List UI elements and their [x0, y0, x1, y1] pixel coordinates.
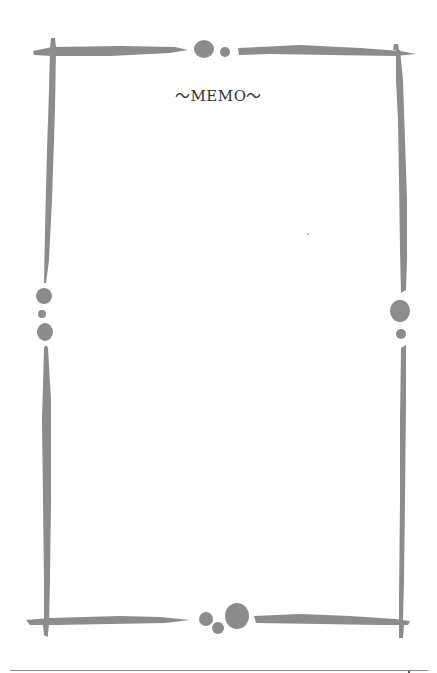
- bottom-right-stroke: [254, 614, 410, 625]
- right-dot-small: [396, 329, 406, 339]
- top-dot-small: [220, 47, 230, 57]
- bottom-dot-2: [212, 622, 224, 634]
- memo-title: ～MEMO～: [0, 86, 437, 106]
- left-upper-stroke: [44, 48, 56, 283]
- left-dot-1: [36, 288, 52, 304]
- right-lower-stroke: [399, 345, 406, 638]
- memo-page: ～MEMO～: [0, 0, 437, 673]
- left-lower-stroke: [42, 346, 51, 635]
- memo-writing-area: [60, 115, 380, 595]
- bottom-divider: [10, 670, 428, 671]
- bottom-dot-3: [225, 603, 249, 629]
- bottom-right-post: [399, 625, 404, 638]
- left-dot-2: [38, 310, 46, 318]
- bottom-left-stroke: [26, 616, 190, 625]
- top-left-stroke: [33, 46, 188, 56]
- top-right-stroke: [238, 45, 416, 56]
- bottom-left-post: [43, 625, 48, 637]
- top-left-post: [50, 38, 56, 48]
- top-dot-large: [194, 40, 214, 58]
- bottom-dot-1: [199, 612, 213, 626]
- top-right-post: [393, 44, 399, 50]
- left-dot-3: [37, 323, 53, 341]
- right-dot-large: [390, 300, 410, 322]
